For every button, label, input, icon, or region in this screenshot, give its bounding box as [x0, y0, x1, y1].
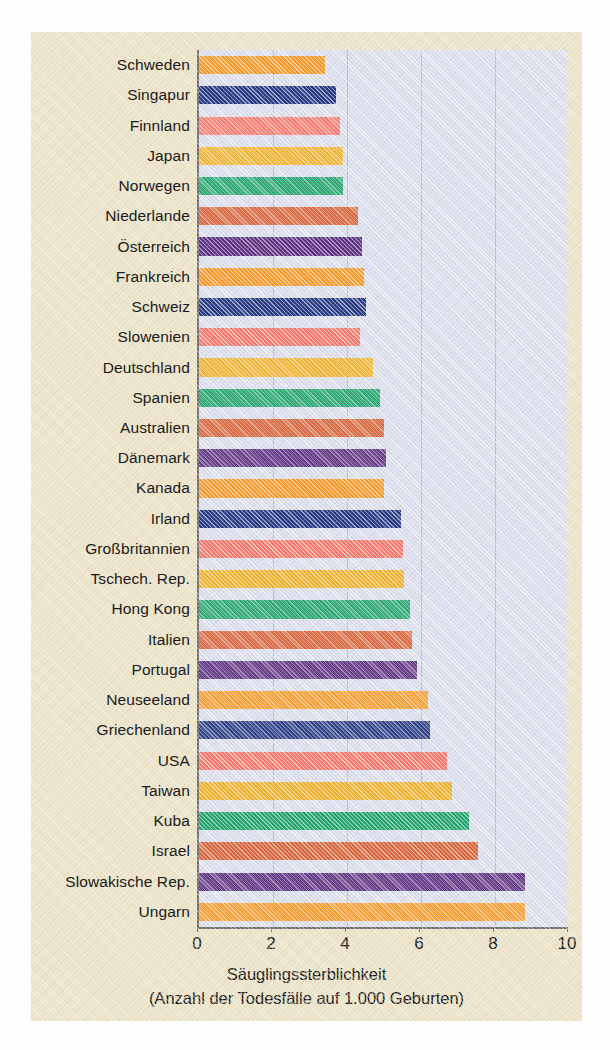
bar-track	[199, 504, 569, 534]
bar-track	[199, 746, 569, 776]
category-label-gro-britannien: Großbritannien	[0, 540, 190, 558]
category-label-niederlande: Niederlande	[0, 207, 190, 225]
bar-track	[199, 806, 569, 836]
tick-mark-4	[345, 927, 346, 932]
category-label-taiwan: Taiwan	[0, 782, 190, 800]
x-axis-title-line1: Säuglingssterblichkeit	[31, 962, 582, 986]
bar-track	[199, 262, 569, 292]
category-label-finnland: Finnland	[0, 117, 190, 135]
tick-mark-10	[567, 927, 568, 932]
bar-slowenien	[199, 328, 360, 346]
bar-track	[199, 80, 569, 110]
tick-mark-0	[197, 927, 198, 932]
bar-row: Portugal	[31, 655, 582, 685]
category-label-australien: Australien	[0, 419, 190, 437]
bar-track	[199, 867, 569, 897]
bar-row: Singapur	[31, 80, 582, 110]
bar-track	[199, 292, 569, 322]
bar-finnland	[199, 117, 340, 135]
bar-track	[199, 897, 569, 927]
bar-row: Frankreich	[31, 262, 582, 292]
bar-track	[199, 50, 569, 80]
bar-track	[199, 201, 569, 231]
chart-card: SchwedenSingapurFinnlandJapanNorwegenNie…	[31, 32, 582, 1021]
category-label-kanada: Kanada	[0, 479, 190, 497]
bar-tschech-rep-	[199, 570, 404, 588]
bar-row: Großbritannien	[31, 534, 582, 564]
bar-track	[199, 352, 569, 382]
category-label-tschech-rep-: Tschech. Rep.	[0, 570, 190, 588]
x-axis-tick-labels: 0246810	[31, 934, 582, 958]
bar-row: Israel	[31, 836, 582, 866]
bar-niederlande	[199, 207, 358, 225]
bar-track	[199, 110, 569, 140]
bar-track	[199, 413, 569, 443]
category-label-neuseeland: Neuseeland	[0, 691, 190, 709]
bar-rows: SchwedenSingapurFinnlandJapanNorwegenNie…	[31, 50, 582, 927]
bar-taiwan	[199, 782, 452, 800]
bar-portugal	[199, 661, 417, 679]
bar-track	[199, 685, 569, 715]
bar-track	[199, 836, 569, 866]
category-label-usa: USA	[0, 752, 190, 770]
category-label-schweiz: Schweiz	[0, 298, 190, 316]
bar-track	[199, 473, 569, 503]
bar-slowakische-rep-	[199, 873, 525, 891]
chart-page: SchwedenSingapurFinnlandJapanNorwegenNie…	[0, 0, 610, 1050]
x-axis-line	[197, 927, 568, 929]
bar-italien	[199, 631, 412, 649]
bar-norwegen	[199, 177, 343, 195]
x-tick-label-10: 10	[558, 934, 577, 954]
x-tick-label-0: 0	[192, 934, 201, 954]
bar-track	[199, 564, 569, 594]
bar--sterreich	[199, 237, 362, 255]
bar-row: Kuba	[31, 806, 582, 836]
bar-schweiz	[199, 298, 366, 316]
x-tick-label-8: 8	[488, 934, 497, 954]
bar-usa	[199, 752, 447, 770]
bar-track	[199, 231, 569, 261]
x-axis-title-line2: (Anzahl der Todesfälle auf 1.000 Geburte…	[31, 986, 582, 1010]
bar-schweden	[199, 56, 325, 74]
category-label--sterreich: Österreich	[0, 238, 190, 256]
bar-hong-kong	[199, 600, 410, 618]
bar-row: Norwegen	[31, 171, 582, 201]
category-label-italien: Italien	[0, 631, 190, 649]
category-label-slowakische-rep-: Slowakische Rep.	[0, 873, 190, 891]
bar-kanada	[199, 479, 384, 497]
bar-row: Tschech. Rep.	[31, 564, 582, 594]
category-label-schweden: Schweden	[0, 56, 190, 74]
bar-row: Irland	[31, 504, 582, 534]
bar-ungarn	[199, 903, 525, 921]
x-tick-label-6: 6	[414, 934, 423, 954]
bar-row: Australien	[31, 413, 582, 443]
category-label-irland: Irland	[0, 510, 190, 528]
bar-track	[199, 141, 569, 171]
bar-spanien	[199, 389, 380, 407]
category-label-spanien: Spanien	[0, 389, 190, 407]
bar-track	[199, 625, 569, 655]
bar-row: Niederlande	[31, 201, 582, 231]
bar-row: Slowenien	[31, 322, 582, 352]
category-label-kuba: Kuba	[0, 812, 190, 830]
bar-track	[199, 534, 569, 564]
bar-row: Deutschland	[31, 352, 582, 382]
category-label-hong-kong: Hong Kong	[0, 600, 190, 618]
bar-track	[199, 655, 569, 685]
bar-row: Griechenland	[31, 715, 582, 745]
bar-row: Ungarn	[31, 897, 582, 927]
bar-track	[199, 594, 569, 624]
bar-row: USA	[31, 746, 582, 776]
bar-row: Neuseeland	[31, 685, 582, 715]
category-label-slowenien: Slowenien	[0, 328, 190, 346]
bar-singapur	[199, 86, 336, 104]
category-label-d-nemark: Dänemark	[0, 449, 190, 467]
category-label-japan: Japan	[0, 147, 190, 165]
bar-track	[199, 776, 569, 806]
category-label-griechenland: Griechenland	[0, 721, 190, 739]
bar-kuba	[199, 812, 469, 830]
x-axis-title: Säuglingssterblichkeit (Anzahl der Todes…	[31, 962, 582, 1010]
bar-row: Kanada	[31, 473, 582, 503]
bar-d-nemark	[199, 449, 386, 467]
bar-row: Schweden	[31, 50, 582, 80]
